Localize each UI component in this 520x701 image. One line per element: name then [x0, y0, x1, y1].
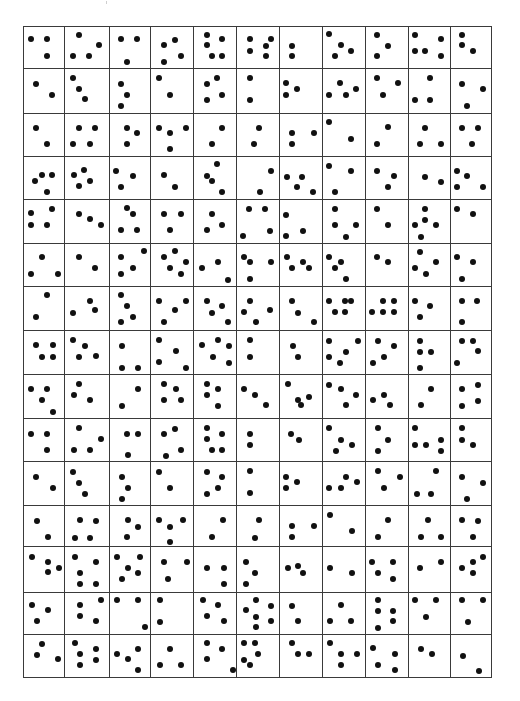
dot [124, 205, 130, 211]
dot [268, 618, 274, 624]
grid-row-line [23, 330, 492, 331]
dot [333, 448, 339, 454]
dot [247, 337, 253, 343]
dot [156, 469, 162, 475]
dot [252, 570, 258, 576]
dot [76, 254, 82, 260]
grid-cell [365, 505, 408, 546]
dot [241, 640, 247, 646]
dot [475, 398, 481, 404]
grid-cell [109, 68, 150, 113]
dot [204, 97, 210, 103]
dot [172, 426, 178, 432]
dot [349, 570, 355, 576]
dot [289, 53, 295, 59]
dot [375, 662, 381, 668]
dot [454, 168, 460, 174]
dot [353, 86, 359, 92]
grid-cell [450, 113, 491, 156]
dot [289, 603, 295, 609]
dot [295, 354, 301, 360]
dot [39, 254, 45, 260]
grid-row-line [23, 156, 492, 157]
dot [71, 172, 77, 178]
dot [418, 646, 424, 652]
dot [464, 103, 470, 109]
dot [299, 174, 305, 180]
dot [118, 81, 124, 87]
grid-cell [64, 505, 109, 546]
dot [93, 646, 99, 652]
dot [374, 53, 380, 59]
dot [289, 130, 295, 136]
dot [296, 437, 302, 443]
dot [417, 338, 423, 344]
dot [135, 667, 141, 673]
grid-cell [23, 113, 64, 156]
dot [418, 402, 424, 408]
dot [290, 343, 296, 349]
dot [209, 534, 215, 540]
dot [327, 565, 333, 571]
dot [412, 222, 418, 228]
dot [55, 656, 61, 662]
dot [204, 491, 210, 497]
dot [135, 524, 141, 530]
dot [395, 80, 401, 86]
dot [326, 485, 332, 491]
dot [50, 409, 56, 415]
grid-column-line [236, 26, 237, 678]
dot [390, 559, 396, 565]
dot [423, 271, 429, 277]
grid-row-line [23, 199, 492, 200]
dot [454, 184, 460, 190]
grid-cell [450, 634, 491, 677]
dot [113, 168, 119, 174]
grid-cell [64, 113, 109, 156]
dot [204, 227, 210, 233]
dot [480, 86, 486, 92]
dot [161, 59, 167, 65]
dot [92, 125, 98, 131]
dot [209, 310, 215, 316]
dot [183, 259, 189, 265]
dot [262, 206, 268, 212]
dot [130, 265, 136, 271]
dot [412, 32, 418, 38]
dot [219, 447, 225, 453]
dot [72, 640, 78, 646]
grid-cell [150, 26, 193, 68]
dot [114, 651, 120, 657]
dot [77, 613, 83, 619]
dot [454, 254, 460, 260]
dot [167, 92, 173, 98]
dot [199, 342, 205, 348]
dot [412, 597, 418, 603]
dot [172, 248, 178, 254]
dot [142, 624, 148, 630]
grid-cell [279, 461, 322, 505]
dot [289, 640, 295, 646]
dot [221, 565, 227, 571]
dot [397, 474, 403, 480]
dot [39, 172, 45, 178]
dot [87, 447, 93, 453]
dot [285, 565, 291, 571]
dot [374, 254, 380, 260]
dot [375, 425, 381, 431]
dot [87, 397, 93, 403]
dot [45, 607, 51, 613]
dot [438, 534, 444, 540]
grid-row-line [23, 26, 492, 27]
dot [219, 36, 225, 42]
dot [381, 392, 387, 398]
dot [72, 535, 78, 541]
dot [247, 97, 253, 103]
grid-cell [193, 330, 236, 374]
grid-cell [279, 26, 322, 68]
dot [215, 259, 221, 265]
dot [385, 259, 391, 265]
dot [459, 437, 465, 443]
dot [183, 365, 189, 371]
dot [284, 254, 290, 260]
